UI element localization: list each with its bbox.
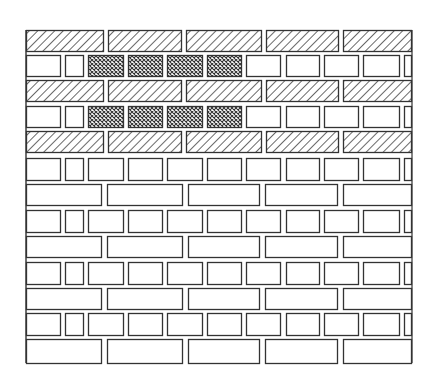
brick-crosshatch (208, 107, 242, 128)
brick-plain (27, 263, 61, 285)
brick-plain (325, 107, 359, 128)
figure-stage (0, 0, 435, 391)
brick-crosshatch (89, 107, 124, 128)
brick-plain (27, 289, 102, 310)
brick-plain (208, 314, 242, 336)
brick-row-header (27, 107, 412, 128)
brick-row-stretcher (27, 185, 412, 206)
brick-row-stretcher (27, 340, 412, 364)
brick-hatched (267, 81, 339, 102)
brick-plain (287, 314, 320, 336)
brick-plain (168, 314, 203, 336)
brick-plain (266, 340, 338, 364)
brick-plain (89, 159, 124, 181)
brick-plain (168, 159, 203, 181)
brick-row-stretcher (27, 81, 412, 102)
brick-plain (66, 263, 84, 285)
brick-plain (344, 289, 412, 310)
brick-row-header (27, 56, 412, 77)
brick-plain (287, 263, 320, 285)
brick-hatched (109, 81, 182, 102)
brick-plain (66, 56, 84, 77)
brick-plain (287, 159, 320, 181)
brick-row-stretcher (27, 237, 412, 258)
brick-plain (108, 340, 183, 364)
brick-hatched (187, 132, 262, 153)
brick-plain (344, 185, 412, 206)
brick-plain (27, 159, 61, 181)
brick-plain (364, 263, 400, 285)
brick-plain (247, 56, 281, 77)
brick-plain (189, 340, 260, 364)
figure-caption (0, 374, 435, 391)
brick-plain (27, 56, 61, 77)
brick-hatched (267, 31, 339, 52)
brick-plain (129, 159, 163, 181)
brick-plain (247, 211, 281, 233)
brick-plain (168, 263, 203, 285)
brick-plain (247, 263, 281, 285)
brick-plain (168, 211, 203, 233)
brick-plain (189, 185, 260, 206)
brick-crosshatch (129, 56, 163, 77)
brick-plain (364, 314, 400, 336)
brick-row-stretcher (27, 289, 412, 310)
brick-crosshatch (129, 107, 163, 128)
brick-row-header (27, 263, 412, 285)
brick-wall-diagram (0, 0, 435, 391)
brick-row-stretcher (27, 31, 412, 52)
brick-plain (108, 237, 183, 258)
brick-plain (189, 237, 260, 258)
brick-plain (266, 289, 338, 310)
brick-plain (129, 263, 163, 285)
brick-plain (405, 56, 412, 77)
brick-plain (405, 107, 412, 128)
brick-hatched (187, 81, 262, 102)
brick-plain (364, 56, 400, 77)
brick-plain (89, 263, 124, 285)
brick-hatched (344, 132, 412, 153)
brick-plain (405, 159, 412, 181)
brick-crosshatch (168, 107, 203, 128)
brick-plain (208, 263, 242, 285)
brick-crosshatch (208, 56, 242, 77)
brick-plain (208, 159, 242, 181)
brick-plain (344, 340, 412, 364)
brick-plain (287, 211, 320, 233)
brick-plain (325, 211, 359, 233)
brick-plain (129, 314, 163, 336)
brick-plain (325, 314, 359, 336)
brick-plain (325, 263, 359, 285)
brick-plain (405, 263, 412, 285)
brick-plain (247, 159, 281, 181)
brick-hatched (187, 31, 262, 52)
brick-hatched (27, 132, 104, 153)
brick-plain (266, 185, 338, 206)
brick-plain (325, 56, 359, 77)
brick-hatched (344, 81, 412, 102)
brick-rows (27, 31, 412, 364)
brick-plain (247, 107, 281, 128)
brick-plain (266, 237, 338, 258)
brick-plain (66, 159, 84, 181)
brick-plain (66, 107, 84, 128)
brick-row-stretcher (27, 132, 412, 153)
brick-plain (364, 107, 400, 128)
brick-plain (108, 185, 183, 206)
brick-row-header (27, 314, 412, 336)
brick-plain (89, 211, 124, 233)
brick-plain (129, 211, 163, 233)
brick-crosshatch (89, 56, 124, 77)
brick-hatched (27, 81, 104, 102)
brick-hatched (27, 31, 104, 52)
brick-hatched (109, 132, 182, 153)
brick-hatched (109, 31, 182, 52)
brick-plain (364, 159, 400, 181)
brick-plain (189, 289, 260, 310)
brick-plain (66, 211, 84, 233)
brick-row-header (27, 159, 412, 181)
brick-plain (89, 314, 124, 336)
brick-plain (27, 211, 61, 233)
brick-plain (208, 211, 242, 233)
brick-plain (405, 314, 412, 336)
